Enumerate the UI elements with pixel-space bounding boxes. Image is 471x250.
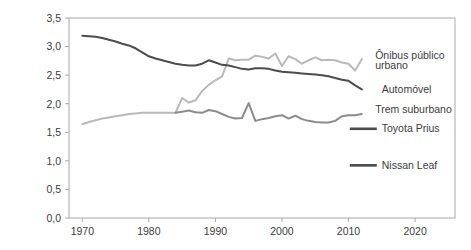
series-annotation-label: Automóvel bbox=[382, 83, 432, 95]
series-annotation-label: Trem suburbano bbox=[375, 103, 452, 115]
y-tick-label: 0,5 bbox=[46, 183, 61, 195]
series-annotation-label: urbano bbox=[375, 59, 408, 71]
x-tick-label: 1990 bbox=[204, 225, 228, 237]
series-line bbox=[82, 36, 362, 90]
y-tick-label: 2,0 bbox=[46, 98, 61, 110]
y-tick-label: 3,5 bbox=[46, 12, 61, 24]
y-tick-label: 1,0 bbox=[46, 155, 61, 167]
y-tick-label: 2,5 bbox=[46, 69, 61, 81]
series-lines bbox=[82, 36, 362, 125]
y-tick-label: 3,0 bbox=[46, 40, 61, 52]
x-axis-ticks: 197019801990200020102020 bbox=[71, 218, 427, 237]
x-tick-label: 2000 bbox=[270, 225, 294, 237]
x-tick-label: 2020 bbox=[403, 225, 427, 237]
y-axis-ticks: 0,00,51,01,52,02,53,03,5 bbox=[46, 12, 69, 224]
y-tick-label: 1,5 bbox=[46, 126, 61, 138]
x-tick-label: 1980 bbox=[137, 225, 161, 237]
line-chart-plot: 0,00,51,01,52,02,53,03,5 197019801990200… bbox=[0, 0, 471, 250]
series-line bbox=[175, 103, 361, 122]
chart-figure: Energia utilizada (megajoules por passag… bbox=[0, 0, 471, 250]
x-tick-label: 2010 bbox=[337, 225, 361, 237]
series-annotation-label: Toyota Prius bbox=[382, 122, 440, 134]
plot-frame bbox=[69, 18, 455, 218]
y-tick-label: 0,0 bbox=[46, 212, 61, 224]
series-annotation-label: Nissan Leaf bbox=[382, 159, 438, 171]
legend-swatches bbox=[350, 129, 377, 166]
series-annotations: Ônibus públicourbanoAutomóvelTrem suburb… bbox=[375, 49, 452, 171]
x-tick-label: 1970 bbox=[71, 225, 95, 237]
